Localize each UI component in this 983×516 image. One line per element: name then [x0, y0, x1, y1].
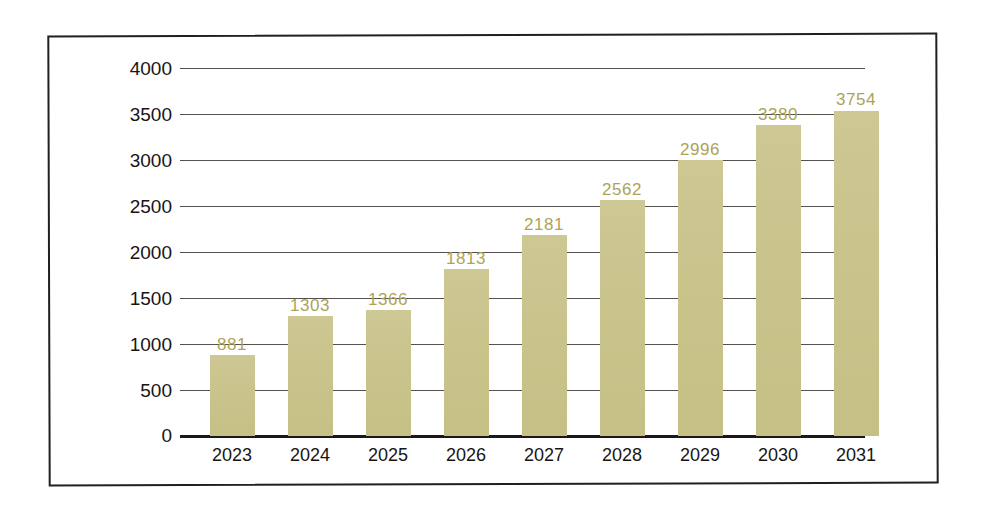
y-tick-label: 4000 [110, 58, 172, 80]
bar-value-label-2023: 881 [193, 335, 271, 355]
bar-2030[interactable] [756, 125, 801, 436]
bar-value-label-2025: 1366 [349, 290, 427, 310]
bar-2025[interactable] [366, 310, 411, 436]
y-tick-label: 2500 [110, 196, 172, 218]
x-tick-label-2031: 2031 [817, 445, 895, 466]
x-tick-label-2024: 2024 [271, 445, 349, 466]
gridline-4000 [180, 68, 865, 69]
bar-2026[interactable] [444, 269, 489, 436]
bar-value-label-2029: 2996 [661, 140, 739, 160]
y-tick-label: 2000 [110, 242, 172, 264]
x-tick-label-2026: 2026 [427, 445, 505, 466]
x-tick-label-2030: 2030 [739, 445, 817, 466]
y-tick-label: 3500 [110, 104, 172, 126]
y-tick-label: 500 [110, 380, 172, 402]
bar-2028[interactable] [600, 200, 645, 436]
bar-chart-figure: 4000 3500 3000 2500 2000 1500 1000 500 0… [0, 0, 983, 516]
bar-2029[interactable] [678, 160, 723, 436]
x-tick-label-2025: 2025 [349, 445, 427, 466]
y-tick-label: 1500 [110, 288, 172, 310]
x-tick-label-2023: 2023 [193, 445, 271, 466]
y-tick-label: 0 [110, 425, 172, 447]
x-tick-label-2029: 2029 [661, 445, 739, 466]
x-tick-label-2027: 2027 [505, 445, 583, 466]
bar-2031[interactable] [834, 111, 879, 436]
bar-value-label-2030: 3380 [739, 105, 817, 125]
bar-value-label-2026: 1813 [427, 249, 505, 269]
bar-2024[interactable] [288, 316, 333, 436]
bar-2023[interactable] [210, 355, 255, 436]
bar-value-label-2028: 2562 [583, 180, 661, 200]
y-tick-label: 3000 [110, 150, 172, 172]
bar-value-label-2024: 1303 [271, 296, 349, 316]
y-tick-label: 1000 [110, 334, 172, 356]
x-tick-label-2028: 2028 [583, 445, 661, 466]
bar-value-label-2027: 2181 [505, 215, 583, 235]
bar-2027[interactable] [522, 235, 567, 436]
bar-value-label-2031: 3754 [817, 90, 895, 110]
